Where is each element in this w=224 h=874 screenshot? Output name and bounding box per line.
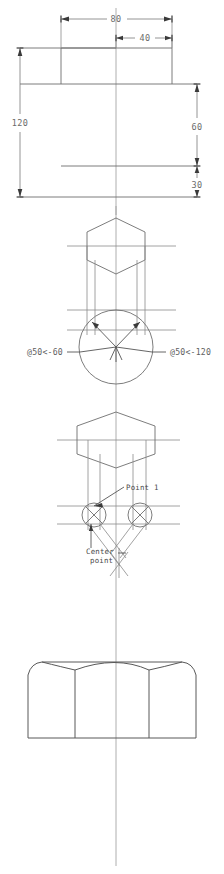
- dim-120-text: 120: [12, 118, 29, 128]
- arc-center-circle-right: [128, 503, 152, 527]
- nut-elevation-view: [28, 662, 196, 738]
- polar-leader-left: @50<-60: [27, 347, 116, 357]
- center-point-label-line1: Center: [86, 547, 114, 556]
- nut-chamfer-arcs: [42, 662, 182, 670]
- dim-40: 40: [116, 33, 172, 48]
- reference-lines-view2: [67, 246, 176, 330]
- hexagon-circle-view: @50<-60 @50<-120: [27, 218, 211, 384]
- reference-lines-view3: [57, 440, 180, 524]
- polar-leader-right: @50<-120: [116, 347, 211, 357]
- point-1-leader: Point 1: [94, 483, 159, 508]
- polar-label-left: @50<-60: [27, 347, 63, 357]
- dim-40-text: 40: [139, 33, 150, 43]
- nut-face-divisions: [75, 670, 149, 738]
- center-point-label-line2: point: [90, 556, 113, 565]
- center-point-leader: Center point: [86, 524, 126, 565]
- cad-drawing-svg: 80 40 120: [0, 0, 224, 874]
- layout-outline: [20, 48, 197, 197]
- dim-80-text: 80: [110, 14, 121, 24]
- dimension-layout-view: 80 40 120: [12, 14, 203, 197]
- cad-drawing-canvas: 80 40 120: [0, 0, 224, 874]
- point-1-label: Point 1: [126, 483, 159, 492]
- dim-60: 60: [191, 84, 202, 166]
- polar-label-right: @50<-120: [170, 347, 211, 357]
- dim-60-text: 60: [191, 122, 202, 132]
- nut-body-outline: [28, 662, 196, 738]
- hexagon-arc-view: Point 1 Center point: [57, 412, 180, 578]
- dim-30: 30: [191, 166, 202, 197]
- dim-120: 120: [12, 48, 29, 197]
- dim-80: 80: [61, 14, 172, 48]
- dim-30-text: 30: [191, 180, 202, 190]
